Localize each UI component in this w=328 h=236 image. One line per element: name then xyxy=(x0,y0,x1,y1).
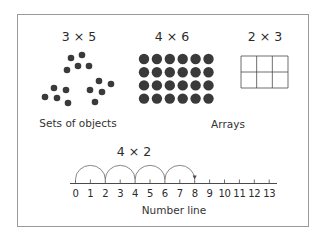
grid-2x3 xyxy=(241,56,288,88)
array-dot xyxy=(152,67,162,77)
array-dot xyxy=(165,93,175,103)
diagram-artwork xyxy=(0,0,328,236)
array-dot xyxy=(178,93,188,103)
dot xyxy=(75,63,82,70)
array-dot xyxy=(139,67,149,77)
tick-label: 11 xyxy=(233,188,245,199)
dot xyxy=(99,89,106,96)
tick-label: 7 xyxy=(177,188,183,199)
jump-arc xyxy=(76,165,106,179)
array-dot xyxy=(178,67,188,77)
array-dot xyxy=(165,54,175,64)
arrow-head-icon xyxy=(193,176,197,180)
array-dot xyxy=(203,93,213,103)
tick-label: 2 xyxy=(102,188,108,199)
array-dot xyxy=(139,54,149,64)
array-dot xyxy=(139,80,149,90)
dot xyxy=(87,87,94,94)
array-dot xyxy=(178,54,188,64)
tick-label: 9 xyxy=(207,188,213,199)
number-line xyxy=(70,165,277,183)
dot xyxy=(63,87,70,94)
array-dot xyxy=(190,93,200,103)
tick-label: 8 xyxy=(192,188,198,199)
array-dot xyxy=(203,67,213,77)
jump-arc xyxy=(105,165,135,179)
tick-label: 4 xyxy=(132,188,138,199)
dot xyxy=(68,55,75,62)
jump-arc xyxy=(165,165,195,179)
dot xyxy=(86,63,93,70)
dot xyxy=(108,81,115,88)
array-dot xyxy=(190,54,200,64)
array-dot xyxy=(139,93,149,103)
array-dot xyxy=(152,80,162,90)
array-dot xyxy=(190,67,200,77)
array-dot xyxy=(203,54,213,64)
dot xyxy=(96,78,103,85)
tick-label: 3 xyxy=(117,188,123,199)
array-dot xyxy=(178,80,188,90)
dot xyxy=(79,52,86,59)
dot xyxy=(42,94,49,101)
dot xyxy=(92,99,99,106)
array-dot xyxy=(165,80,175,90)
tick-label: 6 xyxy=(162,188,168,199)
array-of-dots xyxy=(139,54,214,104)
array-dot xyxy=(165,67,175,77)
tick-label: 13 xyxy=(263,188,275,199)
jump-arc xyxy=(135,165,165,179)
array-dot xyxy=(190,80,200,90)
sets-of-objects xyxy=(42,52,115,107)
array-dot xyxy=(203,80,213,90)
dot xyxy=(54,95,61,102)
tick-label: 0 xyxy=(72,188,78,199)
array-dot xyxy=(152,54,162,64)
tick-label: 5 xyxy=(147,188,153,199)
tick-label: 10 xyxy=(218,188,230,199)
dot xyxy=(51,85,58,92)
dot xyxy=(64,67,71,74)
tick-label: 1 xyxy=(87,188,93,199)
array-dot xyxy=(152,93,162,103)
dot xyxy=(65,100,72,107)
tick-label: 12 xyxy=(248,188,260,199)
